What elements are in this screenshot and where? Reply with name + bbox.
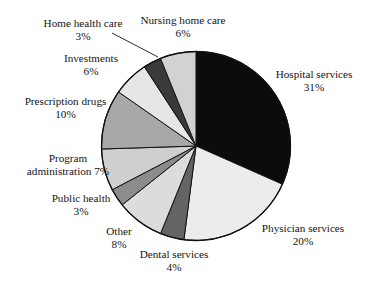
slice-label-physician-services-value: 20% <box>246 235 360 248</box>
slice-label-nursing-home-care: Nursing home care 6% <box>130 14 236 40</box>
slice-label-home-health-care-name: Home health care <box>29 17 137 30</box>
slice-label-program-administration: Program administration 7% <box>4 152 132 178</box>
slice-label-nursing-home-care-name: Nursing home care <box>130 14 236 27</box>
slice-label-physician-services-name: Physician services <box>246 222 360 235</box>
slice-label-program-administration-value: administration 7% <box>4 165 132 178</box>
slice-label-dental-services: Dental services 4% <box>125 248 223 274</box>
slice-label-investments: Investments 6% <box>52 52 130 78</box>
pie-slice-group <box>102 52 291 241</box>
slice-label-prescription-drugs: Prescription drugs 10% <box>10 95 121 121</box>
slice-label-program-administration-name: Program <box>4 152 132 165</box>
slice-label-public-health-value: 3% <box>36 205 126 218</box>
slice-label-dental-services-value: 4% <box>125 261 223 274</box>
slice-label-prescription-drugs-name: Prescription drugs <box>10 95 121 108</box>
slice-label-hospital-services-value: 31% <box>264 81 364 94</box>
slice-label-public-health-name: Public health <box>36 192 126 205</box>
slice-label-investments-value: 6% <box>52 65 130 78</box>
slice-label-dental-services-name: Dental services <box>125 248 223 261</box>
slice-label-home-health-care-value: 3% <box>29 30 137 43</box>
slice-label-hospital-services: Hospital services 31% <box>264 68 364 94</box>
pie-chart: Home health care 3% Nursing home care 6%… <box>0 0 368 287</box>
slice-label-investments-name: Investments <box>52 52 130 65</box>
slice-label-prescription-drugs-value: 10% <box>10 108 121 121</box>
slice-label-home-health-care: Home health care 3% <box>29 17 137 43</box>
slice-label-hospital-services-name: Hospital services <box>264 68 364 81</box>
slice-label-nursing-home-care-value: 6% <box>130 27 236 40</box>
slice-label-other-name: Other <box>98 225 140 238</box>
slice-label-public-health: Public health 3% <box>36 192 126 218</box>
slice-label-physician-services: Physician services 20% <box>246 222 360 248</box>
